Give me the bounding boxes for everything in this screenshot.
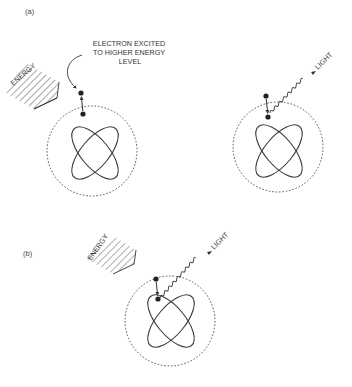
decay-arrow-icon	[156, 282, 157, 295]
nucleus-orbits-icon	[140, 287, 203, 354]
nucleus-orbits-icon	[248, 117, 311, 184]
outer-energy-shell	[125, 276, 215, 366]
light-label: LIGHT	[313, 50, 335, 72]
ground-electron-icon	[80, 111, 85, 116]
light-wave-icon	[263, 78, 310, 113]
panel-label-b: (b)	[23, 249, 33, 258]
atom-absorption: ENERGY ELECTRON EXCITED TO HIGHER ENERGY…	[6, 39, 167, 196]
excited-annotation: ELECTRON EXCITED TO HIGHER ENERGY LEVEL	[93, 39, 167, 66]
excited-electron-icon	[78, 90, 83, 95]
light-arrowhead-icon	[311, 71, 316, 75]
outer-energy-shell	[47, 106, 137, 196]
excited-electron-icon	[263, 93, 268, 98]
nucleus-orbits-icon	[64, 119, 127, 186]
diagram-canvas: (a) ENERGY ELECTRON EXCITED TO HIGHER EN…	[0, 0, 352, 387]
excited-electron-icon	[153, 276, 158, 281]
light-wave-icon	[151, 257, 204, 298]
decay-arrow-icon	[266, 99, 268, 113]
light-label: LIGHT	[209, 230, 231, 252]
panel-label-a: (a)	[25, 7, 35, 16]
atom-absorption-emission: ENERGY LIGHT	[85, 230, 231, 366]
atom-emission: LIGHT	[233, 50, 335, 192]
light-arrowhead-icon	[207, 251, 212, 255]
outer-energy-shell	[233, 102, 323, 192]
excitation-arrow-icon	[81, 97, 82, 111]
ground-electron-icon	[265, 114, 270, 119]
annotation-pointer-icon	[67, 55, 82, 88]
